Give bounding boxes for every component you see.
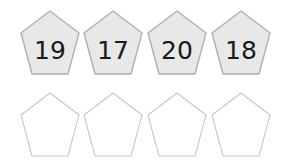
pentagon-blank-3[interactable] [145, 90, 209, 160]
pentagon-17[interactable]: 17 [81, 8, 145, 78]
pentagon-blank-4[interactable] [209, 90, 273, 160]
pentagon-value-label [81, 118, 145, 148]
pentagon-20[interactable]: 20 [145, 8, 209, 78]
pentagon-19[interactable]: 19 [18, 8, 82, 78]
pentagon-value-label: 17 [81, 36, 145, 66]
pentagon-blank-1[interactable] [18, 90, 82, 160]
pentagon-value-label [145, 118, 209, 148]
pentagon-18[interactable]: 18 [209, 8, 273, 78]
pentagon-blank-2[interactable] [81, 90, 145, 160]
pentagon-value-label [209, 118, 273, 148]
blank-pentagon-row [0, 86, 285, 165]
pentagon-value-label: 18 [209, 36, 273, 66]
pentagon-value-label: 19 [18, 36, 82, 66]
numbered-pentagon-row: 19 17 20 18 [0, 0, 285, 86]
pentagon-value-label [18, 118, 82, 148]
pentagon-value-label: 20 [145, 36, 209, 66]
worksheet-canvas: 19 17 20 18 [0, 0, 285, 165]
